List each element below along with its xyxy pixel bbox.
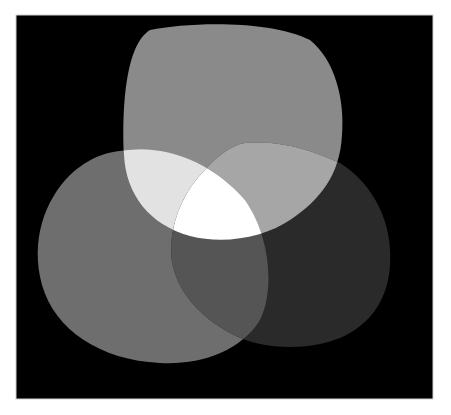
venn-diagram	[0, 0, 451, 415]
